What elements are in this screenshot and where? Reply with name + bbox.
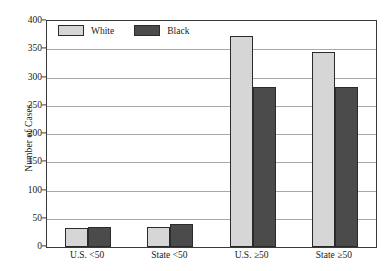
bar-white-0 [65,228,88,247]
y-axis-tick-label: 250 [0,100,42,110]
y-axis-tick-label: 0 [0,241,42,251]
legend-entry-black: Black [134,25,189,36]
x-axis-tick-label: U.S. ≥50 [235,250,269,260]
bar-chart: Number of Cases 050100150200250300350400… [0,0,391,271]
y-axis-tick-label: 50 [0,213,42,223]
bar-black-0 [88,227,111,247]
y-axis-tick-label: 100 [0,185,42,195]
bar-black-1 [170,224,193,247]
bar-white-3 [312,52,335,247]
light-gray-swatch [58,25,84,36]
x-axis-tick-label: State <50 [151,250,187,260]
y-axis-tick-labels: 050100150200250300350400 [0,20,42,246]
legend-label: Black [167,26,189,36]
legend-entry-white: White [58,25,114,36]
bar-black-2 [253,87,276,247]
legend-label: White [91,26,114,36]
y-axis-tick-label: 400 [0,15,42,25]
x-axis-tick-label: U.S. <50 [70,250,104,260]
plot-area [46,20,377,248]
bar-black-3 [335,87,358,247]
y-axis-tick-label: 350 [0,43,42,53]
x-axis-tick-label: State ≥50 [316,250,352,260]
dark-gray-swatch [134,25,160,36]
y-axis-tick-label: 200 [0,128,42,138]
bar-white-1 [147,227,170,247]
bar-white-2 [230,36,253,247]
y-axis-tick-label: 150 [0,156,42,166]
gridline [47,49,376,50]
chart-legend: WhiteBlack [58,25,189,36]
y-axis-tick-label: 300 [0,72,42,82]
